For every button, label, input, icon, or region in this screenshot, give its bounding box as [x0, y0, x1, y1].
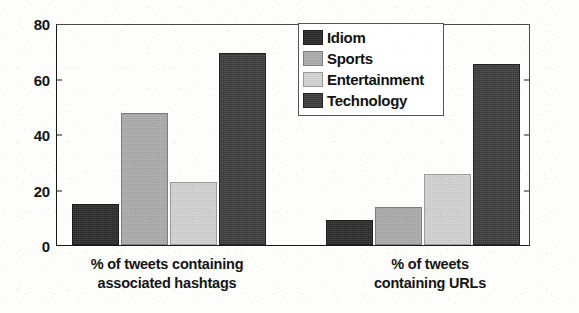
legend: Idiom Sports Entertainment Technology	[298, 23, 444, 116]
bar-technology-urls	[473, 64, 520, 246]
x-group-label-urls-line1: % of tweets	[330, 255, 530, 274]
legend-item-technology: Technology	[303, 90, 438, 111]
bar-technology-hashtags	[219, 53, 266, 246]
y-tick-label-0: 0	[42, 238, 50, 255]
y-tick-label-80: 80	[34, 16, 50, 33]
bar-idiom-hashtags	[72, 204, 119, 245]
bar-sports-hashtags	[121, 113, 168, 245]
bar-idiom-urls	[326, 220, 373, 245]
x-group-label-hashtags: % of tweets containing associated hashta…	[52, 255, 282, 293]
legend-swatch-sports	[303, 51, 323, 66]
bar-entertainment-urls	[424, 174, 471, 246]
bar-sports-urls	[375, 207, 422, 246]
plot-area	[56, 24, 530, 246]
bar-chart-figure: 80 60 40 20 0 % of tweets containing ass…	[0, 0, 579, 313]
legend-swatch-technology	[303, 93, 323, 108]
legend-item-sports: Sports	[303, 48, 438, 69]
legend-item-entertainment: Entertainment	[303, 69, 438, 90]
y-tick-label-60: 60	[34, 71, 50, 88]
legend-label-sports: Sports	[327, 50, 373, 67]
legend-swatch-idiom	[303, 30, 323, 45]
x-group-label-hashtags-line1: % of tweets containing	[52, 255, 282, 274]
x-group-label-hashtags-line2: associated hashtags	[52, 274, 282, 293]
y-tick-label-40: 40	[34, 127, 50, 144]
legend-label-entertainment: Entertainment	[327, 71, 424, 88]
legend-item-idiom: Idiom	[303, 27, 438, 48]
legend-label-technology: Technology	[327, 92, 407, 109]
y-tick-label-20: 20	[34, 182, 50, 199]
x-group-label-urls: % of tweets containing URLs	[330, 255, 530, 293]
legend-label-idiom: Idiom	[327, 29, 366, 46]
x-group-label-urls-line2: containing URLs	[330, 274, 530, 293]
y-axis-labels: 80 60 40 20 0	[0, 0, 50, 313]
bar-entertainment-hashtags	[170, 182, 217, 245]
legend-swatch-entertainment	[303, 72, 323, 87]
